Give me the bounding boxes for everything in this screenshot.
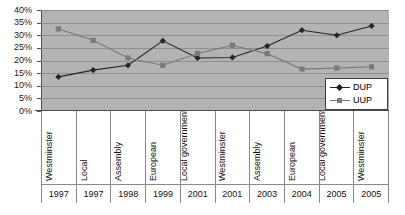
x-axis-election-cell: Westminster xyxy=(42,111,76,184)
y-axis-label: 10% xyxy=(14,81,32,90)
x-axis-election-cell: Assembly xyxy=(111,111,145,184)
data-point-uup-7[interactable] xyxy=(299,66,304,71)
data-point-dup-6[interactable] xyxy=(264,43,270,49)
legend-item-dup[interactable]: DUP xyxy=(329,81,383,94)
x-axis-category-0: Westminster1997 xyxy=(41,111,76,203)
x-axis-year-label: 2003 xyxy=(250,184,284,203)
data-point-uup-4[interactable] xyxy=(195,51,200,56)
x-axis-election-label: Local xyxy=(79,159,89,181)
y-axis-label: 0% xyxy=(19,107,32,116)
x-axis-election-label: Westminster xyxy=(356,131,366,181)
x-axis-election-label: Assembly xyxy=(252,142,262,181)
data-point-dup-7[interactable] xyxy=(299,27,305,33)
data-point-dup-5[interactable] xyxy=(229,54,235,60)
x-axis-category-6: Assembly2003 xyxy=(249,111,284,203)
x-axis-year-label: 2001 xyxy=(216,184,250,203)
data-point-uup-1[interactable] xyxy=(91,38,96,43)
x-axis-election-label: European xyxy=(148,142,158,181)
y-axis-label: 20% xyxy=(14,56,32,65)
series-line-uup xyxy=(58,29,371,69)
x-axis-election-label: Assembly xyxy=(113,142,123,181)
x-axis-year-label: 1997 xyxy=(42,184,76,203)
x-axis-year-label: 2001 xyxy=(181,184,215,203)
x-axis-year-label: 1999 xyxy=(146,184,180,203)
x-axis-election-cell: Assembly xyxy=(250,111,284,184)
x-axis-year-label: 2004 xyxy=(285,184,319,203)
x-axis-election-label: Westminster xyxy=(217,131,227,181)
x-axis-election-label: Local government xyxy=(320,111,328,181)
data-point-uup-2[interactable] xyxy=(125,55,130,60)
y-axis-label: 25% xyxy=(14,43,32,52)
x-axis-election-cell: Local government xyxy=(181,111,215,184)
y-axis: 0%5%10%15%20%25%30%35%40% xyxy=(0,0,39,121)
x-axis-election-cell: Local xyxy=(77,111,111,184)
data-point-dup-0[interactable] xyxy=(55,74,61,80)
data-point-uup-6[interactable] xyxy=(265,51,270,56)
x-axis-category-5: Westminster2001 xyxy=(215,111,250,203)
x-axis-election-label: Local government xyxy=(181,111,189,181)
y-axis-label: 30% xyxy=(14,31,32,40)
x-axis-category-table: Westminster1997Local1997Assembly1998Euro… xyxy=(41,111,389,203)
x-axis-year-label: 2005 xyxy=(320,184,354,203)
legend-label-dup: DUP xyxy=(351,83,372,92)
x-axis-category-2: Assembly1998 xyxy=(110,111,145,203)
line-chart: 0%5%10%15%20%25%30%35%40% DUP xyxy=(0,0,405,215)
data-point-uup-3[interactable] xyxy=(160,63,165,68)
y-axis-label: 15% xyxy=(14,69,32,78)
y-axis-label: 40% xyxy=(14,6,32,15)
x-axis-election-cell: Westminster xyxy=(354,111,388,184)
x-axis-category-9: Westminster2005 xyxy=(353,111,389,203)
x-axis-election-label: European xyxy=(287,142,297,181)
x-axis-election-cell: Local government xyxy=(320,111,354,184)
data-point-dup-8[interactable] xyxy=(334,32,340,38)
x-axis-election-cell: European xyxy=(146,111,180,184)
x-axis-category-7: European2004 xyxy=(284,111,319,203)
x-axis-year-label: 1997 xyxy=(77,184,111,203)
x-axis-election-cell: Westminster xyxy=(216,111,250,184)
x-axis-category-4: Local government2001 xyxy=(180,111,215,203)
y-axis-label: 35% xyxy=(14,18,32,27)
plot-area: DUP UUP xyxy=(41,10,389,111)
x-axis-category-8: Local government2005 xyxy=(319,111,354,203)
data-point-dup-9[interactable] xyxy=(369,23,375,29)
data-point-uup-0[interactable] xyxy=(56,26,61,31)
x-axis-election-cell: European xyxy=(285,111,319,184)
x-axis-election-label: Westminster xyxy=(44,131,54,181)
data-point-uup-8[interactable] xyxy=(334,65,339,70)
square-marker-icon xyxy=(329,95,351,106)
y-axis-label: 5% xyxy=(19,94,32,103)
page-bottom-margin xyxy=(0,203,405,215)
legend-item-uup[interactable]: UUP xyxy=(329,94,383,107)
series-line-dup xyxy=(58,26,371,77)
data-point-dup-1[interactable] xyxy=(90,67,96,73)
data-point-uup-5[interactable] xyxy=(230,43,235,48)
x-axis-year-label: 1998 xyxy=(111,184,145,203)
x-axis-year-label: 2005 xyxy=(354,184,388,203)
legend-label-uup: UUP xyxy=(351,96,372,105)
diamond-marker-icon xyxy=(329,82,351,93)
x-axis-category-1: Local1997 xyxy=(76,111,111,203)
legend[interactable]: DUP UUP xyxy=(325,78,388,110)
data-point-uup-9[interactable] xyxy=(369,64,374,69)
x-axis-category-3: European1999 xyxy=(145,111,180,203)
